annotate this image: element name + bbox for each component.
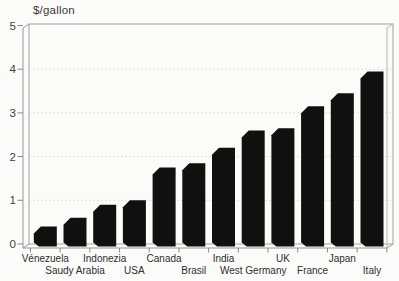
y-tick-label: 2 <box>2 150 16 164</box>
bar-india <box>212 148 235 247</box>
bar-canada <box>153 168 176 247</box>
bar-uk <box>271 128 294 246</box>
plot-area <box>0 0 399 281</box>
y-axis-ticks <box>18 26 24 245</box>
y-tick-label: 5 <box>2 19 16 33</box>
x-axis-ticks <box>30 248 386 253</box>
y-tick-label: 3 <box>2 106 16 120</box>
bar-italy <box>361 71 384 246</box>
bars-group <box>34 71 384 246</box>
bar-chart-figure: $/gallon 012345 VénezuelaSaudy ArabiaInd… <box>0 0 399 281</box>
bar-japan <box>331 93 354 246</box>
bar-west-germany <box>242 130 265 246</box>
bar-brasil <box>182 163 205 246</box>
y-tick-label: 4 <box>2 62 16 76</box>
bar-usa <box>123 200 146 246</box>
bar-france <box>301 106 324 246</box>
x-category-label: Japan <box>282 253 399 264</box>
y-tick-label: 0 <box>2 237 16 251</box>
bar-indonezia <box>93 205 116 247</box>
bar-v-nezuela <box>34 227 57 247</box>
y-tick-label: 1 <box>2 193 16 207</box>
y-axis-title: $/gallon <box>33 4 75 16</box>
bar-saudy-arabia <box>64 218 87 247</box>
x-category-label: Italy <box>312 265 399 276</box>
